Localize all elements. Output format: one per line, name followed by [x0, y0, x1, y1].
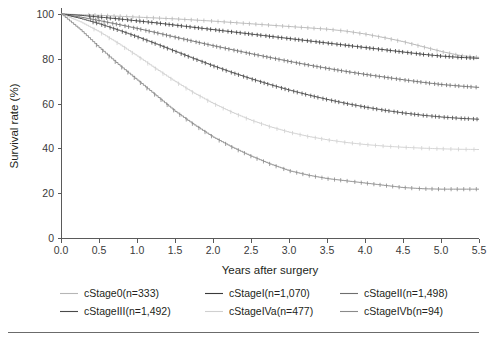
series-cstagei	[61, 14, 479, 60]
curve-line	[61, 14, 479, 119]
y-tick-label: 20	[42, 187, 54, 199]
x-tick-label: 1.5	[168, 244, 183, 256]
x-axis-title: Years after surgery	[222, 264, 319, 276]
y-tick-label: 60	[42, 98, 54, 110]
x-tick-label: 4.5	[396, 244, 411, 256]
legend-label: cStageIVb(n=94)	[364, 305, 443, 317]
x-tick-label: 2.0	[206, 244, 221, 256]
x-tick-label: 0.0	[54, 244, 69, 256]
series-cstageivb	[61, 14, 479, 191]
curves-group	[61, 13, 479, 191]
x-tick-label: 4.0	[358, 244, 373, 256]
legend-label: cStageI(n=1,070)	[229, 287, 310, 299]
legend-label: cStageIII(n=1,492)	[84, 305, 171, 317]
x-tick-label: 3.5	[320, 244, 335, 256]
y-tick-label: 0	[48, 232, 54, 244]
y-tick-label: 40	[42, 142, 54, 154]
x-tick-label: 5.0	[434, 244, 449, 256]
series-cstageiva	[61, 14, 479, 152]
kaplan-meier-chart: 0204060801000.00.51.01.52.02.53.03.54.04…	[0, 0, 487, 340]
legend-label: cStageII(n=1,498)	[364, 287, 448, 299]
legend-group: cStage0(n=333)cStageI(n=1,070)cStageII(n…	[60, 287, 448, 317]
x-tick-label: 2.5	[244, 244, 259, 256]
legend-label: cStage0(n=333)	[84, 287, 159, 299]
legend-item[interactable]: cStage0(n=333)	[60, 287, 159, 299]
y-tick-label: 100	[36, 8, 54, 20]
x-tick-label: 0.5	[92, 244, 107, 256]
x-tick-label: 3.0	[282, 244, 297, 256]
legend-item[interactable]: cStageIII(n=1,492)	[60, 305, 171, 317]
legend-item[interactable]: cStageIVb(n=94)	[340, 305, 443, 317]
legend-item[interactable]: cStageII(n=1,498)	[340, 287, 448, 299]
legend-label: cStageIVa(n=477)	[229, 305, 313, 317]
x-tick-label: 1.0	[130, 244, 145, 256]
y-axis-title: Survival rate (%)	[8, 83, 20, 168]
legend-item[interactable]: cStageIVa(n=477)	[205, 305, 313, 317]
survival-chart-figure: 0204060801000.00.51.01.52.02.53.03.54.04…	[0, 0, 487, 340]
legend-item[interactable]: cStageI(n=1,070)	[205, 287, 310, 299]
x-tick-label: 5.5	[472, 244, 487, 256]
y-tick-label: 80	[42, 53, 54, 65]
